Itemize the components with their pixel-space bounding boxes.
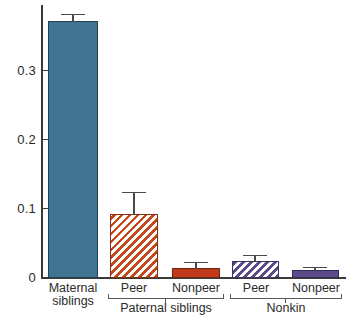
brace-end-right — [341, 294, 342, 299]
error-stem — [314, 267, 315, 272]
error-bar-nonkin-nonpeer — [303, 267, 327, 272]
brace-line-left — [230, 298, 285, 299]
error-stem — [254, 255, 255, 262]
error-stem — [133, 192, 134, 215]
bar-label-line1: Peer — [243, 281, 269, 295]
error-stem — [72, 14, 73, 22]
brace-end-right — [223, 294, 224, 299]
y-tick-label-0.1: 0.1 — [8, 201, 36, 216]
error-bar-nonkin-peer — [243, 255, 267, 262]
brace-line-right — [166, 298, 223, 299]
error-bar-paternal-nonpeer — [184, 262, 208, 269]
group-label-paternal-siblings: Paternal siblings — [106, 301, 226, 315]
bar-label-line2: siblings — [52, 294, 94, 308]
brace-line-right — [286, 298, 341, 299]
y-tick-label-0.3: 0.3 — [8, 63, 36, 78]
bar-label-maternal-siblings: Maternal siblings — [43, 282, 103, 308]
error-bar-maternal-siblings — [61, 14, 85, 22]
brace-line-left — [108, 298, 165, 299]
y-tick-label-0.2: 0.2 — [8, 132, 36, 147]
bar-paternal-nonpeer — [172, 268, 220, 278]
y-tick-label-0: 0 — [8, 270, 36, 285]
bar-label-line1: Nonpeer — [172, 281, 220, 295]
y-axis-line — [41, 5, 43, 278]
bar-paternal-peer — [110, 214, 158, 278]
bar-label-line1: Nonpeer — [292, 281, 340, 295]
bar-nonkin-peer — [232, 261, 279, 278]
bar-chart-figure: 0 0.1 0.2 0.3 Maternal siblings Peer Non… — [0, 0, 362, 316]
bar-maternal-siblings — [48, 21, 98, 278]
error-stem — [195, 262, 196, 269]
error-bar-paternal-peer — [122, 192, 146, 215]
bar-label-line1: Peer — [121, 281, 147, 295]
bar-label-line1: Maternal — [49, 281, 98, 295]
group-label-nonkin: Nonkin — [228, 301, 344, 315]
